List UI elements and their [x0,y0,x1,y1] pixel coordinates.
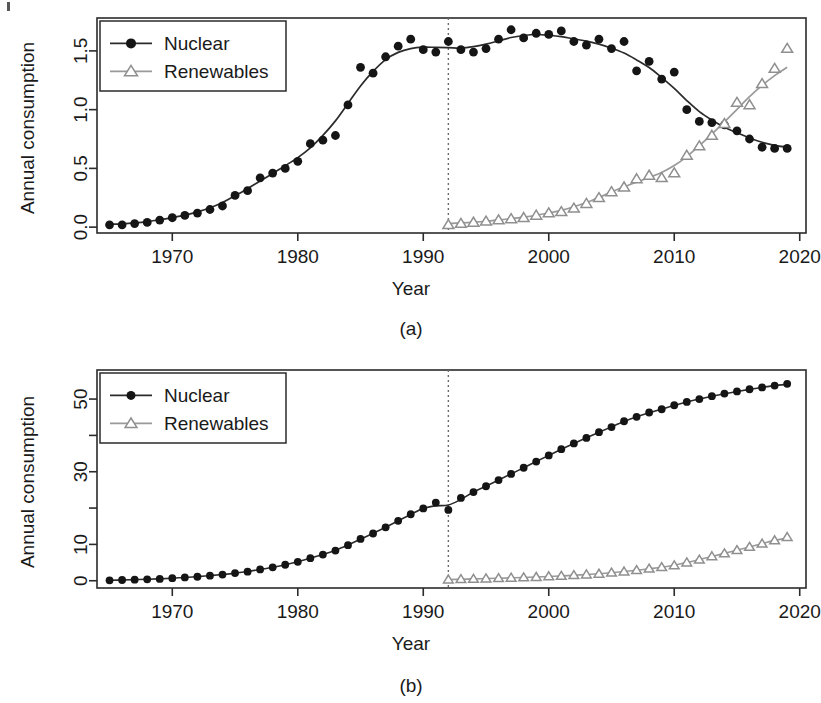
nuclear-data-point [168,574,176,582]
nuclear-data-point [444,37,453,46]
nuclear-data-point [256,173,265,182]
nuclear-data-point [733,126,742,135]
nuclear-data-point [469,48,478,57]
renewables-data-point [593,193,604,202]
nuclear-data-point [293,157,302,166]
y-tick-label: 0.0 [70,214,91,240]
nuclear-data-point [407,510,415,518]
legend: NuclearRenewables [100,373,286,443]
nuclear-data-point [682,105,691,114]
nuclear-data-point [495,476,503,484]
legend-renewables-label: Renewables [164,413,269,434]
x-tick-label: 1970 [151,601,193,622]
y-tick-label: 50 [70,388,91,409]
nuclear-data-point [356,63,365,72]
nuclear-data-point [507,470,515,478]
renewables-data-point [681,150,692,159]
nuclear-data-point [583,434,591,442]
renewables-data-point [706,130,717,139]
nuclear-data-point [570,439,578,447]
nuclear-data-point [733,388,741,396]
renewables-data-point [644,170,655,179]
nuclear-data-point [444,506,452,514]
x-tick-label: 2000 [528,246,570,267]
panel-b: 1970198019902000201020200103050 NuclearR… [0,350,821,703]
nuclear-data-point [231,191,240,200]
nuclear-data-point [306,554,314,562]
legend-nuclear-label: Nuclear [164,385,230,406]
x-tick-label: 1980 [277,601,319,622]
nuclear-data-point [520,464,528,472]
nuclear-data-point [557,27,566,36]
nuclear-data-point [658,405,666,413]
nuclear-data-point [243,186,252,195]
nuclear-data-point [156,575,164,583]
nuclear-data-point [143,575,151,583]
nuclear-data-point [268,169,277,178]
nuclear-data-point [244,568,252,576]
panel-b-yaxis-title: Annual consumption [17,396,38,568]
nuclear-data-point [721,390,729,398]
nuclear-data-point [632,66,641,75]
renewables-fit-curve [448,67,787,223]
nuclear-data-point [544,30,553,39]
x-tick-label: 1990 [402,246,444,267]
renewables-data-point [782,533,792,541]
renewables-data-point [631,174,642,183]
nuclear-data-point [707,118,716,127]
nuclear-data-point [219,571,227,579]
nuclear-data-point [470,488,478,496]
nuclear-data-point [344,541,352,549]
nuclear-data-point [783,144,792,153]
nuclear-data-point [381,52,390,61]
x-tick-label: 1990 [402,601,444,622]
nuclear-data-point [770,144,779,153]
nuclear-data-point [532,458,540,466]
nuclear-data-point [432,499,440,507]
nuclear-data-point [482,482,490,490]
nuclear-data-point [369,69,378,78]
nuclear-data-point [155,216,164,225]
y-tick-label: 1.5 [70,38,91,64]
nuclear-data-point [281,164,290,173]
panel-a-tag: (a) [399,318,422,339]
legend-renewables-label: Renewables [164,61,269,82]
renewables-data-point [669,168,680,177]
panel-a-xaxis-title: Year [392,278,431,299]
renewables-data-point [732,97,743,106]
nuclear-data-point [105,220,114,229]
nuclear-data-point [118,220,127,229]
renewables-data-point [769,63,780,72]
panel-b-tag: (b) [399,675,422,696]
nuclear-data-point [344,101,353,110]
nuclear-data-point [608,423,616,431]
nuclear-data-point [557,445,565,453]
nuclear-data-point [645,409,653,417]
nuclear-data-point [746,385,754,393]
nuclear-data-point [745,135,754,144]
nuclear-data-point [294,558,302,566]
nuclear-data-point [394,517,402,525]
nuclear-data-point [168,213,177,222]
x-tick-label: 1970 [151,246,193,267]
figure-container: 1970198019902000201020200.00.51.01.5 Nuc… [0,0,821,703]
nuclear-data-point [281,561,289,569]
nuclear-data-point [507,25,516,34]
nuclear-data-point [394,42,403,51]
nuclear-data-point [708,392,716,400]
nuclear-data-point [318,136,327,145]
nuclear-data-point [457,45,466,54]
nuclear-data-point [695,117,704,126]
legend-nuclear-label: Nuclear [164,33,230,54]
nuclear-data-point [106,576,114,584]
nuclear-data-point [406,35,415,44]
nuclear-data-point [595,35,604,44]
nuclear-data-point [206,205,215,214]
y-tick-label: 10 [70,534,91,555]
nuclear-data-point [143,218,152,227]
panel-a-yaxis-title: Annual consumption [17,42,38,214]
nuclear-data-point [758,384,766,392]
x-tick-label: 2000 [528,601,570,622]
nuclear-data-point [620,417,628,425]
nuclear-data-point [357,535,365,543]
